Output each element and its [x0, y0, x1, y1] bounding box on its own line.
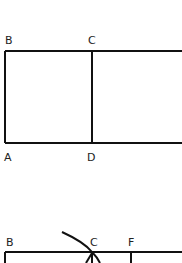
label-a-top: A [4, 151, 12, 164]
label-b-top: B [5, 34, 13, 47]
geometry-diagram: B C A D B C F [0, 0, 182, 263]
label-d-top: D [87, 151, 95, 164]
label-f-bottom: F [128, 236, 134, 249]
label-b-bottom: B [6, 236, 14, 249]
top-figure [5, 51, 182, 143]
label-c-top: C [88, 34, 96, 47]
label-c-bottom: C [90, 236, 98, 249]
